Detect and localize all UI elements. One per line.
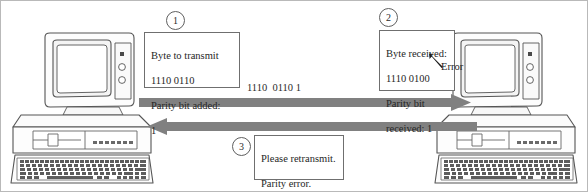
callout-1-line-4: 1 <box>151 125 234 138</box>
callout-1-line-1: Byte to transmit <box>151 50 234 63</box>
error-annotation-label: Error <box>441 61 463 72</box>
callout-byte-to-transmit: Byte to transmit 1110 0110 Parity bit ad… <box>144 32 240 88</box>
callout-please-retransmit: Please retransmit. Parity error. <box>254 135 344 180</box>
callout-1-line-3: Parity bit added: <box>151 100 234 113</box>
callout-2-line-2: 1110 0100 <box>386 73 449 86</box>
step-number-3-text: 3 <box>239 142 244 152</box>
step-number-2-text: 2 <box>386 13 391 23</box>
callout-2-line-4: received: 1 <box>386 123 449 136</box>
callout-3-line-2: Parity error. <box>261 178 338 191</box>
sending-computer-illustration <box>7 29 159 187</box>
callout-3-line-1: Please retransmit. <box>261 153 338 166</box>
sending-computer <box>7 29 159 187</box>
transmitted-bits-label: 1110 0110 1 <box>247 82 301 93</box>
parity-error-diagram: 1110 0110 1 1 Byte to transmit 1110 0110… <box>0 0 588 192</box>
step-number-3: 3 <box>232 137 251 156</box>
step-number-1: 1 <box>166 11 185 30</box>
step-number-2: 2 <box>379 8 398 27</box>
step-number-1-text: 1 <box>173 16 178 26</box>
callout-2-line-3: Parity bit <box>386 98 449 111</box>
callout-1-line-2: 1110 0110 <box>151 75 234 88</box>
